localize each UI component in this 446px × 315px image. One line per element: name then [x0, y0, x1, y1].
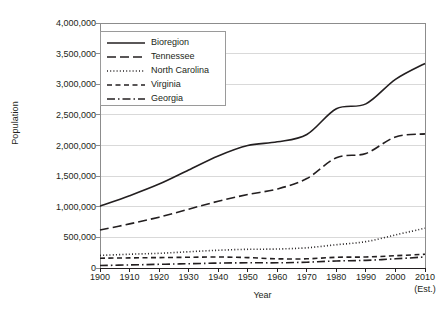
- legend-line-sample: [106, 37, 146, 48]
- x-axis-tick-label: 2010: [405, 272, 445, 282]
- series-line-north-carolina: [100, 228, 425, 255]
- legend-line-sample: [106, 93, 146, 104]
- legend-label: Virginia: [151, 79, 181, 90]
- legend-item-tennessee: Tennessee: [106, 50, 220, 63]
- legend-item-virginia: Virginia: [106, 78, 220, 91]
- legend-label: North Carolina: [151, 65, 209, 76]
- legend-label: Georgia: [151, 93, 183, 104]
- legend-item-georgia: Georgia: [106, 92, 220, 105]
- legend-line-sample: [106, 79, 146, 90]
- legend-label: Tennessee: [151, 51, 195, 62]
- legend-item-bioregion: Bioregion: [106, 36, 220, 49]
- legend-item-north-carolina: North Carolina: [106, 64, 220, 77]
- legend-line-sample: [106, 51, 146, 62]
- series-line-tennessee: [100, 134, 425, 230]
- x-axis-title: Year: [100, 290, 425, 300]
- population-line-chart: Population 4,000,0003,500,0003,000,0002,…: [0, 0, 446, 315]
- legend-label: Bioregion: [151, 37, 189, 48]
- legend-line-sample: [106, 65, 146, 76]
- x-axis-tick-sublabel: (Est.): [405, 284, 445, 294]
- chart-legend: BioregionTennesseeNorth CarolinaVirginia…: [100, 31, 226, 106]
- series-line-virginia: [100, 254, 425, 259]
